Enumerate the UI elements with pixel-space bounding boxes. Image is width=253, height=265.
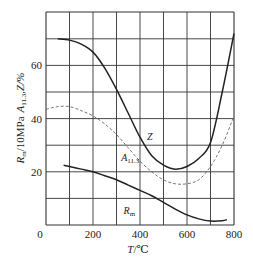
- y-tick-label: 60: [31, 59, 43, 71]
- series-label: Rm: [123, 205, 136, 218]
- x-tick-label: 200: [85, 228, 102, 240]
- series-label: Z: [147, 131, 153, 142]
- x-tick-label: 800: [226, 228, 243, 240]
- x-tick-label: 400: [132, 228, 149, 240]
- series-z: [58, 33, 234, 169]
- grid: [46, 12, 234, 225]
- origin-label: 0: [37, 228, 43, 240]
- tick-labels: 2004006008000204060: [31, 59, 243, 240]
- series-label: A11.3: [120, 152, 140, 165]
- y-tick-label: 40: [31, 113, 43, 125]
- x-tick-label: 600: [179, 228, 196, 240]
- y-axis-title: Rm/10MPaA11.3,Z/%: [14, 73, 28, 165]
- chart: 2004006008000204060 ZA11.3Rm T/℃ Rm/10MP…: [0, 0, 253, 265]
- x-axis-title: T/℃: [127, 243, 149, 255]
- series-r-m: [64, 165, 227, 221]
- y-tick-label: 20: [31, 166, 43, 178]
